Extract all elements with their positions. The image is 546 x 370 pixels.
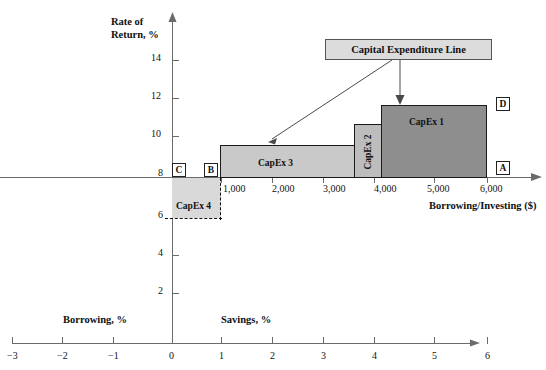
y-tick-label-2: 2 — [158, 285, 163, 296]
x-axis-title: Borrowing/Investing ($) — [429, 200, 536, 211]
secondary-x-tick-3 — [323, 337, 324, 344]
secondary-x-label--2: −2 — [57, 350, 68, 361]
capital-expenditure-line-callout[interactable]: Capital Expenditure Line — [325, 39, 492, 60]
y-axis-title-line2: Return, % — [111, 29, 159, 40]
point-marker-b[interactable]: B — [204, 163, 218, 177]
y-axis-title-line1: Rate of — [111, 16, 143, 27]
secondary-x-label--3: −3 — [7, 350, 18, 361]
y-tick-2 — [172, 293, 179, 294]
y-tick-label-12: 12 — [151, 90, 161, 101]
secondary-x-tick--1 — [113, 337, 114, 344]
savings-axis-title: Savings, % — [221, 314, 271, 325]
x-tick-label-5000: 5,000 — [427, 183, 450, 194]
bar-capex-4-label: CapEx 4 — [176, 201, 211, 211]
bar-capex-1[interactable] — [381, 105, 487, 178]
x-tick-label-2000: 2,000 — [272, 183, 295, 194]
secondary-x-tick-6 — [487, 337, 488, 344]
bar-capex-4-right-dashed-edge — [220, 178, 221, 220]
x-tick-label-1000: 1,000 — [223, 183, 246, 194]
point-marker-a[interactable]: A — [496, 161, 510, 175]
secondary-x-tick-1 — [221, 337, 222, 344]
secondary-x-label-2: 2 — [270, 350, 275, 361]
secondary-x-tick-5 — [434, 337, 435, 344]
y-tick-4 — [172, 255, 179, 256]
secondary-x-label-0: 0 — [169, 350, 174, 361]
point-marker-d[interactable]: D — [496, 97, 510, 111]
secondary-x-label-5: 5 — [432, 350, 437, 361]
chart-canvas: Rate of Return, % 14 12 10 8 6 4 2 1,000… — [0, 0, 546, 370]
x-tick-label-3000: 3,000 — [323, 183, 346, 194]
borrowing-axis-title: Borrowing, % — [63, 314, 127, 325]
y-tick-label-14: 14 — [151, 52, 161, 63]
secondary-x-tick-0 — [172, 337, 173, 344]
x-tick-label-4000: 4,000 — [374, 183, 397, 194]
secondary-x-label-3: 3 — [321, 350, 326, 361]
secondary-x-tick-4 — [374, 337, 375, 344]
secondary-x-tick--2 — [62, 337, 63, 344]
bar-capex-4[interactable] — [172, 178, 221, 218]
secondary-x-label-6: 6 — [485, 350, 490, 361]
y-tick-14 — [172, 60, 179, 61]
y-tick-label-4: 4 — [158, 247, 163, 258]
secondary-x-tick--3 — [12, 337, 13, 344]
x-tick-label-6000: 6,000 — [480, 183, 503, 194]
bar-capex-1-label: CapEx 1 — [409, 117, 444, 127]
bar-capex-3-label: CapEx 3 — [258, 158, 293, 168]
bar-capex-4-bottom-dashed-edge — [165, 218, 222, 219]
secondary-x-label-4: 4 — [372, 350, 377, 361]
secondary-x-label--1: −1 — [108, 350, 119, 361]
secondary-x-axis-line — [12, 343, 474, 344]
y-tick-label-6: 6 — [158, 209, 163, 220]
bar-capex-2-label: CapEx 2 — [363, 129, 373, 175]
secondary-x-label-1: 1 — [219, 350, 224, 361]
y-tick-10 — [172, 136, 179, 137]
secondary-x-tick-2 — [272, 337, 273, 344]
y-tick-label-10: 10 — [151, 128, 161, 139]
y-tick-12 — [172, 98, 179, 99]
point-marker-c[interactable]: C — [172, 163, 186, 177]
